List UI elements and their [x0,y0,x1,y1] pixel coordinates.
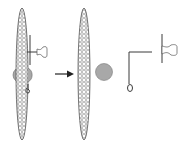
hook-loop [128,85,133,92]
panel-bare [78,8,90,140]
clip-group [162,34,177,63]
arrow-group [55,71,74,78]
clip-icon-left [37,47,47,58]
arrow-right-icon [67,71,74,78]
ball-edge-right [28,68,32,82]
ball [96,64,113,81]
clip-icon [162,45,177,56]
assembled-panel-group [13,8,47,140]
diagram-canvas [0,0,188,147]
hook-l-shape [129,52,152,84]
hook-group [128,52,153,92]
panel-left [16,8,28,140]
